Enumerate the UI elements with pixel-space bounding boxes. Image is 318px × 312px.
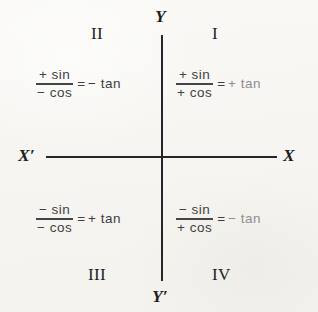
result-quadrant-three: + tan	[88, 212, 121, 226]
quadrant-label-three: III	[88, 266, 106, 283]
formula-quadrant-four: − sin + cos = − tan	[176, 203, 261, 235]
fraction-quadrant-one: + sin + cos	[176, 68, 213, 100]
fraction-quadrant-four: − sin + cos	[176, 203, 213, 235]
denominator-quadrant-two: − cos	[36, 85, 73, 100]
fraction-quadrant-two: + sin − cos	[36, 68, 73, 100]
y-axis-positive-label: Y	[155, 8, 166, 26]
x-axis-positive-label: X	[283, 147, 295, 165]
numerator-quadrant-one: + sin	[176, 68, 213, 83]
denominator-quadrant-four: + cos	[176, 220, 213, 235]
formula-quadrant-three: − sin − cos = + tan	[36, 203, 121, 235]
y-axis-line	[161, 35, 164, 281]
equals-sign-quadrant-two: =	[77, 77, 85, 91]
y-axis-negative-label: Y′	[152, 288, 168, 306]
quadrant-label-one: I	[212, 25, 218, 42]
formula-quadrant-two: + sin − cos = − tan	[36, 68, 121, 100]
quadrant-label-two: II	[91, 25, 103, 42]
x-axis-negative-label: X′	[18, 147, 35, 165]
equals-sign-quadrant-three: =	[77, 212, 85, 226]
result-quadrant-two: − tan	[88, 77, 121, 91]
result-quadrant-four: − tan	[228, 212, 261, 226]
result-quadrant-one: + tan	[228, 77, 261, 91]
formula-quadrant-one: + sin + cos = + tan	[176, 68, 261, 100]
equals-sign-quadrant-one: =	[217, 77, 225, 91]
numerator-quadrant-four: − sin	[176, 203, 213, 218]
fraction-quadrant-three: − sin − cos	[36, 203, 73, 235]
numerator-quadrant-three: − sin	[36, 203, 73, 218]
denominator-quadrant-one: + cos	[176, 85, 213, 100]
numerator-quadrant-two: + sin	[36, 68, 73, 83]
quadrant-label-four: IV	[212, 266, 231, 283]
equals-sign-quadrant-four: =	[217, 212, 225, 226]
denominator-quadrant-three: − cos	[36, 220, 73, 235]
trig-quadrant-diagram: Y Y′ X′ X I II III IV + sin + cos = + ta…	[0, 0, 318, 312]
